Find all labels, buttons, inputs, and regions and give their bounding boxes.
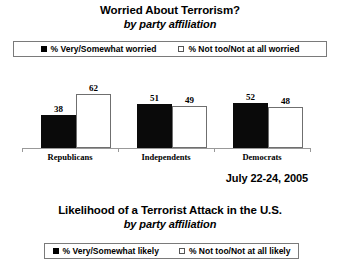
legend-label-not-too-not-at-all-likely: % Not too/Not at all likely: [189, 246, 291, 256]
x-axis-line: [22, 148, 311, 149]
worried-about-terrorism-chart: Worried About Terrorism? by party affili…: [0, 0, 340, 31]
bar-value-democrats-worried: 52: [246, 92, 255, 102]
legend-label-not-too-not-at-all-worried: % Not too/Not at all worried: [188, 44, 299, 54]
legend-entry-very-somewhat-worried: % Very/Somewhat worried: [41, 44, 157, 54]
filled-square-icon: [53, 248, 59, 254]
chart1-legend: % Very/Somewhat worried % Not too/Not at…: [13, 41, 327, 57]
filled-square-icon: [41, 46, 47, 52]
bar-value-democrats-not-worried: 48: [281, 96, 290, 106]
bar-democrats-worried: 52: [233, 103, 268, 148]
chart1-title: Worried About Terrorism?: [0, 3, 340, 17]
legend-label-very-somewhat-likely: % Very/Somewhat likely: [63, 246, 159, 256]
legend-entry-not-too-not-at-all-likely: % Not too/Not at all likely: [179, 246, 291, 256]
likelihood-of-attack-chart: Likelihood of a Terrorist Attack in the …: [0, 203, 340, 231]
legend-entry-very-somewhat-likely: % Very/Somewhat likely: [53, 246, 159, 256]
bar-independents-not-worried: 49: [172, 106, 207, 148]
chart2-subtitle: by party affiliation: [0, 217, 340, 231]
bar-republicans-worried: 38: [41, 115, 76, 148]
bar-value-independents-worried: 51: [150, 93, 159, 103]
chart1-title-block: Worried About Terrorism? by party affili…: [0, 0, 340, 31]
chart2-title: Likelihood of a Terrorist Attack in the …: [0, 203, 340, 217]
chart1-plot-area: 38 62 51 49 52 48: [22, 62, 311, 149]
bar-group-democrats: 52 48: [214, 62, 310, 148]
bar-value-republicans-worried: 38: [54, 104, 63, 114]
bar-value-independents-not-worried: 49: [185, 95, 194, 105]
hollow-square-icon: [178, 46, 184, 52]
bar-group-republicans: 38 62: [22, 62, 118, 148]
category-label-republicans: Republicans: [48, 152, 93, 162]
bar-republicans-not-worried: 62: [76, 94, 111, 148]
hollow-square-icon: [179, 248, 185, 254]
poll-date-note: July 22-24, 2005: [226, 172, 308, 184]
chart2-legend: % Very/Somewhat likely % Not too/Not at …: [44, 243, 299, 259]
category-label-democrats: Democrats: [242, 152, 281, 162]
bar-value-republicans-not-worried: 62: [89, 83, 98, 93]
chart1-subtitle: by party affiliation: [0, 17, 340, 31]
bar-independents-worried: 51: [137, 104, 172, 148]
bar-democrats-not-worried: 48: [268, 107, 303, 148]
chart1-category-labels: Republicans Independents Democrats: [22, 152, 311, 166]
chart2-title-block: Likelihood of a Terrorist Attack in the …: [0, 203, 340, 231]
legend-label-very-somewhat-worried: % Very/Somewhat worried: [51, 44, 157, 54]
category-label-independents: Independents: [141, 152, 190, 162]
bar-group-independents: 51 49: [118, 62, 214, 148]
legend-entry-not-too-not-at-all-worried: % Not too/Not at all worried: [178, 44, 299, 54]
